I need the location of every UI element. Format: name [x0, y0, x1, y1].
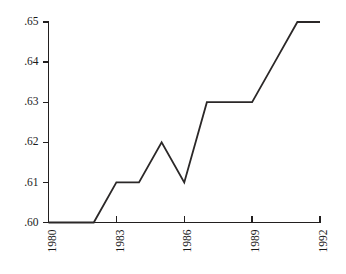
x-axis-tick-label: 1986	[181, 229, 193, 252]
data-series-line	[49, 22, 321, 223]
x-axis-tick-label: 1983	[114, 229, 126, 252]
y-axis-tick-label: .60	[24, 216, 39, 228]
y-axis-tick-label: .62	[24, 135, 39, 147]
y-axis-tick-label: .64	[24, 55, 39, 67]
x-axis-tick-label: 1992	[317, 229, 329, 252]
x-axis-group: 19801983198619891992	[46, 216, 330, 253]
x-axis-tick-label: 1980	[46, 229, 58, 252]
chart-canvas: .60.61.62.63.64.65 19801983198619891992	[0, 0, 346, 274]
y-axis-tick-label: .61	[24, 176, 39, 188]
y-axis-ticks	[43, 22, 49, 223]
x-axis-tick-labels: 19801983198619891992	[46, 229, 330, 252]
x-axis-tick-label: 1989	[249, 229, 261, 252]
y-axis-group: .60.61.62.63.64.65	[24, 15, 48, 228]
line-chart: .60.61.62.63.64.65 19801983198619891992	[0, 0, 346, 274]
y-axis-tick-label: .63	[24, 95, 39, 107]
y-axis-tick-labels: .60.61.62.63.64.65	[24, 15, 39, 228]
y-axis-tick-label: .65	[24, 15, 39, 27]
x-axis-ticks	[49, 216, 321, 223]
